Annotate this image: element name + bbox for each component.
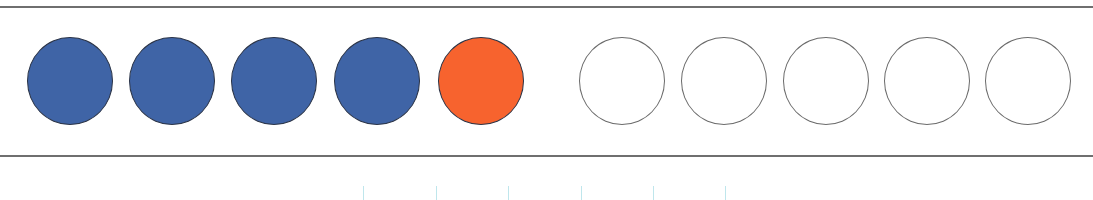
empty-counter-slot xyxy=(985,37,1071,125)
empty-counter-slot xyxy=(681,37,767,125)
tick-mark xyxy=(436,186,437,200)
blue-counter xyxy=(27,37,113,125)
tick-mark xyxy=(581,186,582,200)
empty-counter-slot xyxy=(579,37,665,125)
tick-mark xyxy=(508,186,509,200)
tick-mark xyxy=(653,186,654,200)
orange-counter xyxy=(438,37,524,125)
blue-counter xyxy=(334,37,420,125)
counter-row xyxy=(0,0,1093,200)
empty-counter-slot xyxy=(884,37,970,125)
tick-mark xyxy=(363,186,364,200)
blue-counter xyxy=(129,37,215,125)
blue-counter xyxy=(231,37,317,125)
tick-mark xyxy=(725,186,726,200)
empty-counter-slot xyxy=(783,37,869,125)
